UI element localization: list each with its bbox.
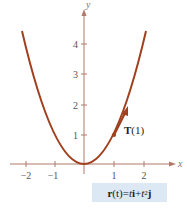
y-axis-arrow-icon [82,9,87,16]
tangent-label: T(1) [124,124,145,137]
y-axis-label: y [85,0,91,10]
y-tick-label: 1 [73,130,78,141]
x-tick-label: 2 [142,170,147,181]
x-axis-label: x [177,158,183,169]
y-tick-label: 3 [73,69,78,80]
x-tick-label: −1 [48,170,59,181]
parabola-plot: −2 −1 1 2 1 2 3 4 x y T(1) [0,0,187,210]
y-tick-label: 4 [73,39,78,50]
equation-label: r(t) = ti + t2j [92,183,167,202]
point-marker [112,133,116,137]
x-tick-label: −2 [21,170,32,181]
x-axis-arrow-icon [169,162,176,167]
y-tick-label: 2 [73,100,78,111]
x-tick-label: 1 [112,170,117,181]
